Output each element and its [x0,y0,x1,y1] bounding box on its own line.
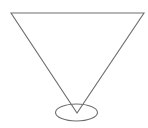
cone-diagram [0,0,148,128]
inverted-triangle [11,13,144,113]
